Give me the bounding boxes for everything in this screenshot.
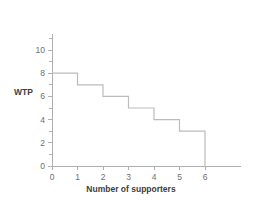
x-tick-label: 4: [152, 172, 157, 182]
x-tick-label: 1: [75, 172, 80, 182]
x-tick-label: 0: [50, 172, 55, 182]
x-axis-title: Number of supporters: [86, 184, 176, 194]
x-tick-label: 5: [177, 172, 182, 182]
chart-container: 0246810 0123456 WTP Number of supporters: [0, 0, 262, 201]
y-axis-title: WTP: [14, 87, 33, 97]
x-tick-label: 2: [101, 172, 106, 182]
y-tick-label: 10: [36, 45, 46, 55]
y-tick-label: 4: [40, 115, 45, 125]
y-tick-label: 8: [40, 68, 45, 78]
step-chart: 0246810 0123456 WTP Number of supporters: [0, 0, 262, 201]
y-tick-label: 0: [40, 161, 45, 171]
x-tick-label: 3: [126, 172, 131, 182]
y-tick-label: 2: [40, 138, 45, 148]
y-tick-label: 6: [40, 91, 45, 101]
x-tick-label: 6: [203, 172, 208, 182]
